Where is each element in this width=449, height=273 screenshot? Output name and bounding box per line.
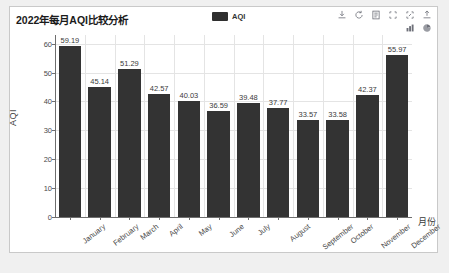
x-tick-label: May — [197, 222, 214, 238]
bar-value-label: 33.58 — [328, 110, 347, 119]
y-tick-label: 10 — [34, 184, 52, 193]
chart-toolbox[interactable] — [337, 10, 432, 36]
x-tick-mark — [100, 217, 101, 220]
bar-september[interactable] — [297, 120, 320, 217]
x-tick-mark — [70, 217, 71, 220]
x-tick-mark — [397, 217, 398, 220]
y-axis-ticks: 0102030405060 — [32, 7, 52, 273]
zoom-reset-icon[interactable] — [405, 10, 415, 20]
bar-value-label: 37.77 — [269, 98, 288, 107]
toolbox-row-secondary — [337, 23, 432, 33]
bar-value-label: 51.29 — [120, 59, 139, 68]
bar-december[interactable] — [386, 55, 409, 217]
bar-january[interactable] — [59, 46, 82, 217]
bar-value-label: 42.37 — [358, 85, 377, 94]
gridline-vertical — [85, 35, 86, 217]
y-axis-title: AQI — [8, 109, 18, 126]
gridline-vertical — [204, 35, 205, 217]
bar-march[interactable] — [118, 69, 141, 217]
y-tick-mark — [52, 73, 55, 74]
bar-value-label: 33.57 — [298, 110, 317, 119]
bar-october[interactable] — [326, 120, 349, 217]
zoom-select-icon[interactable] — [388, 10, 398, 20]
bar-february[interactable] — [88, 87, 111, 217]
gridline-vertical — [323, 35, 324, 217]
y-tick-label: 20 — [34, 155, 52, 164]
bar-value-label: 59.19 — [60, 36, 79, 45]
y-tick-label: 50 — [34, 68, 52, 77]
x-tick-mark — [248, 217, 249, 220]
x-tick-label: March — [139, 222, 161, 242]
legend-swatch-aqi[interactable] — [212, 12, 228, 21]
gridline-vertical — [144, 35, 145, 217]
x-tick-mark — [189, 217, 190, 220]
x-tick-mark — [159, 217, 160, 220]
y-tick-mark — [52, 159, 55, 160]
plot-area: 59.1945.1451.2942.5740.0336.5939.4837.77… — [55, 35, 412, 217]
x-tick-label: November — [380, 222, 413, 250]
x-tick-mark — [308, 217, 309, 220]
chart-page: 2022年每月AQI比较分析 AQI — [0, 0, 449, 273]
x-tick-label: February — [111, 222, 140, 248]
x-tick-label: January — [81, 222, 108, 246]
y-tick-mark — [52, 130, 55, 131]
gridline-vertical — [263, 35, 264, 217]
x-tick-mark — [278, 217, 279, 220]
y-axis-line — [55, 35, 56, 218]
download-icon[interactable] — [337, 10, 347, 20]
x-tick-mark — [338, 217, 339, 220]
gridline-vertical — [293, 35, 294, 217]
gridline-vertical — [234, 35, 235, 217]
gridline-vertical — [174, 35, 175, 217]
bar-chart-icon[interactable] — [405, 23, 415, 33]
x-tick-label: July — [256, 222, 272, 237]
y-tick-label: 30 — [34, 126, 52, 135]
y-tick-mark — [52, 44, 55, 45]
y-tick-label: 0 — [34, 213, 52, 222]
bar-july[interactable] — [237, 103, 260, 217]
export-icon[interactable] — [422, 10, 432, 20]
x-tick-mark — [367, 217, 368, 220]
gridline-vertical — [115, 35, 116, 217]
bar-value-label: 45.14 — [90, 77, 109, 86]
y-tick-label: 40 — [34, 97, 52, 106]
data-view-icon[interactable] — [371, 10, 381, 20]
bar-value-label: 40.03 — [179, 91, 198, 100]
bar-april[interactable] — [148, 94, 171, 217]
bar-august[interactable] — [267, 108, 290, 217]
x-tick-label: June — [227, 222, 245, 239]
x-tick-mark — [129, 217, 130, 220]
chart-panel: 2022年每月AQI比较分析 AQI — [9, 6, 438, 253]
bar-value-label: 42.57 — [150, 84, 169, 93]
x-tick-label: August — [288, 222, 312, 243]
bar-may[interactable] — [178, 101, 201, 217]
bar-value-label: 36.59 — [209, 101, 228, 110]
bar-value-label: 55.97 — [388, 45, 407, 54]
legend-label-aqi[interactable]: AQI — [232, 12, 245, 21]
bar-november[interactable] — [356, 95, 379, 217]
x-tick-mark — [219, 217, 220, 220]
y-tick-mark — [52, 217, 55, 218]
bar-june[interactable] — [207, 111, 230, 217]
x-axis-line — [55, 217, 412, 218]
bar-value-label: 39.48 — [239, 93, 258, 102]
x-tick-label: April — [167, 222, 184, 238]
gridline-vertical — [353, 35, 354, 217]
toolbox-row-primary — [337, 10, 432, 20]
refresh-icon[interactable] — [354, 10, 364, 20]
gridline-vertical — [382, 35, 383, 217]
y-tick-mark — [52, 188, 55, 189]
y-tick-mark — [52, 101, 55, 102]
chart-legend: AQI — [212, 12, 245, 21]
y-tick-label: 60 — [34, 39, 52, 48]
pie-chart-icon[interactable] — [422, 23, 432, 33]
